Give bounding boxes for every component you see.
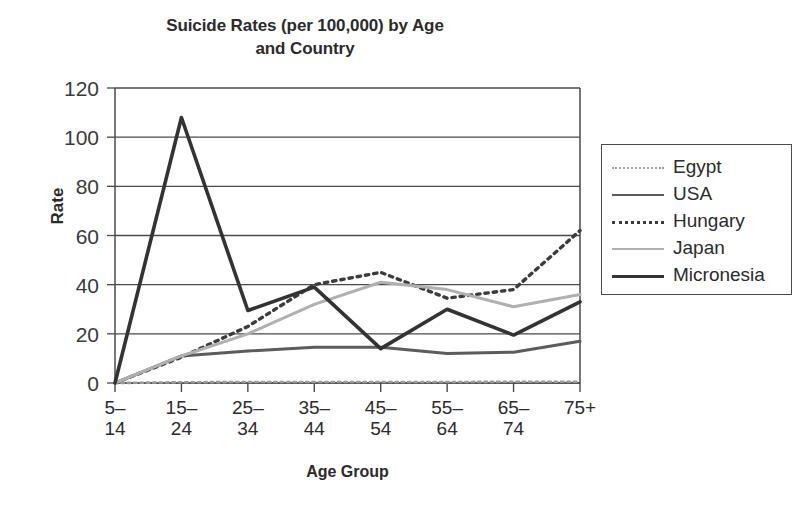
x-tick-label: 25– xyxy=(232,397,264,418)
y-tick-label: 0 xyxy=(87,372,99,395)
x-tick-label: 65– xyxy=(498,397,530,418)
chart-legend: EgyptUSAHungaryJapanMicronesia xyxy=(601,144,792,295)
legend-swatch-icon xyxy=(612,214,664,228)
legend-swatch-icon xyxy=(612,268,664,282)
x-tick-label: 55– xyxy=(431,397,463,418)
legend-swatch-icon xyxy=(612,187,664,201)
x-tick-label: 35– xyxy=(298,397,330,418)
x-tick-label: 75+ xyxy=(564,397,596,418)
legend-label: Micronesia xyxy=(673,264,765,285)
x-tick-label-second-line: 44 xyxy=(304,418,326,439)
legend-label: USA xyxy=(673,183,712,204)
legend-item-egypt[interactable]: Egypt xyxy=(602,153,791,180)
series-line-egypt xyxy=(115,382,580,383)
series-line-micronesia xyxy=(115,118,580,384)
y-tick-label: 20 xyxy=(76,323,99,346)
x-tick-label-second-line: 34 xyxy=(237,418,259,439)
x-tick-label-second-line: 64 xyxy=(437,418,459,439)
x-tick-label-second-line: 14 xyxy=(104,418,126,439)
legend-label: Hungary xyxy=(673,210,745,231)
legend-label: Japan xyxy=(673,237,725,258)
legend-item-usa[interactable]: USA xyxy=(602,180,791,207)
series-line-usa xyxy=(115,341,580,383)
chart-container: Suicide Rates (per 100,000) by Age and C… xyxy=(0,0,810,514)
x-tick-label-second-line: 24 xyxy=(171,418,193,439)
x-tick-label: 5– xyxy=(104,397,126,418)
x-tick-label: 45– xyxy=(365,397,397,418)
legend-swatch-icon xyxy=(612,241,664,255)
legend-swatch-icon xyxy=(612,160,664,174)
y-tick-label: 120 xyxy=(64,77,99,100)
x-axis-title: Age Group xyxy=(115,463,580,481)
legend-label: Egypt xyxy=(673,156,722,177)
y-tick-label: 80 xyxy=(76,175,99,198)
legend-item-hungary[interactable]: Hungary xyxy=(602,207,791,234)
y-tick-label: 60 xyxy=(76,225,99,248)
legend-item-micronesia[interactable]: Micronesia xyxy=(602,261,791,288)
x-tick-label: 15– xyxy=(166,397,198,418)
x-tick-label-second-line: 54 xyxy=(370,418,392,439)
y-tick-label: 40 xyxy=(76,274,99,297)
y-tick-label: 100 xyxy=(64,126,99,149)
x-tick-label-second-line: 74 xyxy=(503,418,525,439)
legend-list: EgyptUSAHungaryJapanMicronesia xyxy=(602,145,791,294)
legend-item-japan[interactable]: Japan xyxy=(602,234,791,261)
